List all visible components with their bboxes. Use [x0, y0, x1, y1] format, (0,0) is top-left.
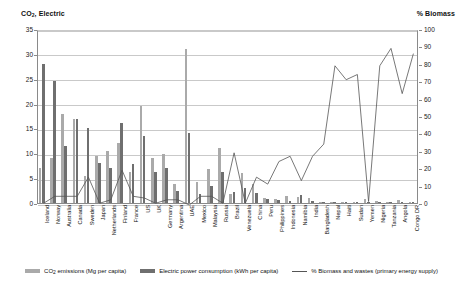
right-tick-label: 30: [424, 148, 431, 155]
biomass-line-series: [38, 31, 419, 205]
right-tick-mark: [419, 152, 422, 153]
category-label: Namibia: [303, 205, 309, 226]
category-label: Norway: [56, 205, 62, 224]
right-tick-label: 100: [424, 26, 435, 33]
category-label: Venezuela: [247, 205, 253, 231]
legend-label: % Biomass and wastes (primary energy sup…: [311, 268, 438, 274]
right-tick-label: 50: [424, 113, 431, 120]
right-tick-label: 80: [424, 61, 431, 68]
right-tick-mark: [419, 65, 422, 66]
category-label: UAE: [190, 205, 196, 217]
left-tick-label: 20: [26, 101, 33, 108]
left-tick-label: 10: [26, 150, 33, 157]
chart-legend: CO2 emissions (Mg per capita)Electric po…: [0, 263, 463, 279]
category-label: Yemen: [370, 205, 376, 222]
left-tick-label: 0: [29, 200, 33, 207]
category-label: Nepal: [336, 205, 342, 220]
right-tick-mark: [419, 82, 422, 83]
right-tick-mark: [419, 100, 422, 101]
category-label: Angola: [403, 205, 409, 222]
right-tick-mark: [419, 169, 422, 170]
category-label: China: [258, 205, 264, 220]
right-tick-label: 10: [424, 183, 431, 190]
right-tick-mark: [419, 117, 422, 118]
right-tick-label: 60: [424, 96, 431, 103]
category-label: Germany: [168, 205, 174, 228]
category-label: India: [314, 205, 320, 217]
category-label: Haiti: [347, 205, 353, 216]
category-axis-labels: IcelandNorwayAustraliaCanadaSwedenJapanN…: [37, 205, 418, 257]
left-tick-label: 15: [26, 125, 33, 132]
right-tick-mark: [419, 187, 422, 188]
legend-line-biomass: [292, 271, 307, 272]
category-label: Mexico: [202, 205, 208, 223]
right-tick-mark: [419, 134, 422, 135]
category-label: Australia: [67, 205, 73, 227]
category-label: Russia: [224, 205, 230, 222]
category-label: France: [134, 205, 140, 222]
category-label: UK: [157, 205, 163, 213]
left-tick-label: 35: [26, 26, 33, 33]
plot-area: [37, 30, 418, 204]
legend-swatch-co2: [25, 269, 40, 273]
right-tick-label: 0: [424, 200, 428, 207]
category-label: Tanzania: [392, 205, 398, 227]
category-label: Peru: [269, 205, 275, 217]
left-tick-label: 30: [26, 51, 33, 58]
legend-item: CO2 emissions (Mg per capita): [25, 268, 126, 275]
right-tick-mark: [419, 30, 422, 31]
category-label: Bangladesh: [325, 205, 331, 235]
legend-label: Electric power consumption (kWh per capi…: [159, 268, 278, 274]
category-label: Nigeria: [381, 205, 387, 223]
category-label: Malaysia: [213, 205, 219, 227]
left-tick-label: 5: [29, 175, 33, 182]
right-tick-label: 40: [424, 130, 431, 137]
category-label: Iceland: [45, 205, 51, 223]
category-label: Argentina: [179, 205, 185, 229]
category-label: US: [146, 205, 152, 213]
left-axis-title-rest: , Electric: [35, 10, 65, 17]
category-label: Philippines: [280, 205, 286, 232]
legend-label: CO2 emissions (Mg per capita): [44, 268, 126, 275]
right-tick-label: 20: [424, 165, 431, 172]
legend-item: % Biomass and wastes (primary energy sup…: [292, 268, 438, 274]
category-label: Sweden: [90, 205, 96, 225]
legend-item: Electric power consumption (kWh per capi…: [140, 268, 278, 274]
category-label: Brazil: [235, 205, 241, 219]
category-label: Indonesia: [291, 205, 297, 229]
category-label: Canada: [78, 205, 84, 225]
category-label: Japan: [101, 205, 107, 220]
category-label: Finland: [123, 205, 129, 223]
right-tick-label: 90: [424, 43, 431, 50]
right-tick-mark: [419, 47, 422, 48]
chart-container: CO2, Electric % Biomass 05101520253035 0…: [0, 0, 463, 285]
legend-swatch-electric: [140, 269, 155, 273]
right-axis-ticks: 0102030405060708090100: [419, 0, 463, 285]
left-tick-label: 25: [26, 76, 33, 83]
category-label: Sudan: [359, 205, 365, 221]
left-axis-ticks: 05101520253035: [0, 0, 37, 285]
category-label: Congo DR: [415, 205, 421, 231]
right-tick-label: 70: [424, 78, 431, 85]
category-label: Netherlands: [112, 205, 118, 235]
